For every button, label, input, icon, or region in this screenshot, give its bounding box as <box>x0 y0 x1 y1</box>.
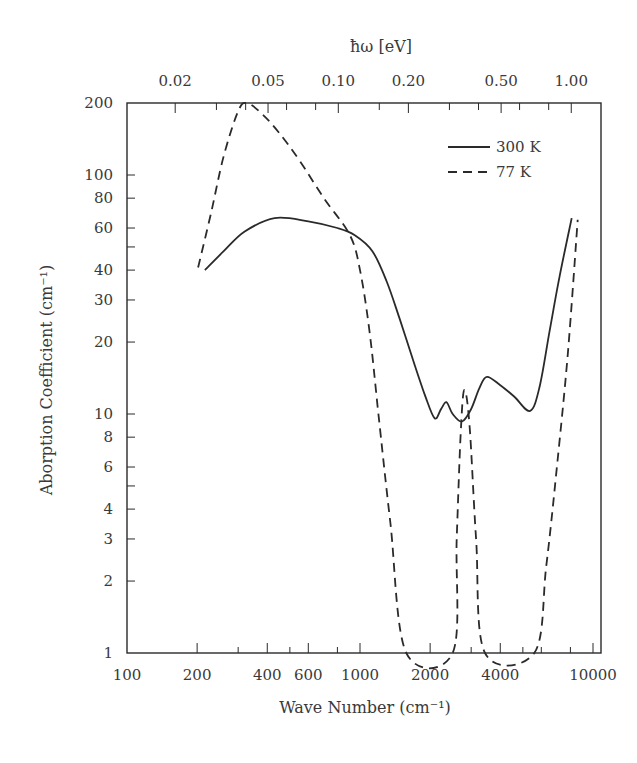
y-tick-label: 8 <box>103 428 113 446</box>
top-tick-label: 0.05 <box>251 72 284 90</box>
y-axis-title: Aborption Coefficient (cm⁻¹) <box>37 265 56 497</box>
y-tick-label: 100 <box>84 166 113 184</box>
plot-frame <box>127 103 601 653</box>
y-tick-label: 30 <box>94 291 113 309</box>
y-tick-label: 60 <box>94 219 113 237</box>
x-tick-label: 200 <box>183 666 212 684</box>
y-tick-label: 2 <box>103 572 113 590</box>
x-tick-label: 4000 <box>481 666 519 684</box>
top-tick-label: 0.10 <box>322 72 355 90</box>
y-tick-label: 6 <box>103 458 113 476</box>
y-tick-label: 80 <box>94 189 113 207</box>
series-300k <box>205 218 572 422</box>
top-tick-label: 0.02 <box>158 72 191 90</box>
top-tick-label: 0.50 <box>484 72 517 90</box>
series-lines <box>198 103 578 668</box>
y-tick-label: 4 <box>103 500 113 518</box>
y-tick-label: 10 <box>94 405 113 423</box>
y-tick-label: 1 <box>103 644 113 662</box>
y-tick-label: 200 <box>84 94 113 112</box>
x-axis-top: 0.020.050.100.200.501.00 <box>158 72 587 113</box>
plot-border <box>127 103 601 653</box>
y-tick-label: 20 <box>94 333 113 351</box>
x-axis-title: Wave Number (cm⁻¹) <box>279 698 451 717</box>
top-tick-label: 1.00 <box>555 72 588 90</box>
series-77k <box>198 103 578 668</box>
legend-label: 300 K <box>496 138 541 156</box>
x-tick-label: 1000 <box>341 666 379 684</box>
chart-canvas: 10020040060010002000400010000 0.020.050.… <box>0 0 637 763</box>
absorption-chart: 10020040060010002000400010000 0.020.050.… <box>0 0 637 763</box>
x-axis-bottom: 10020040060010002000400010000 <box>113 643 617 684</box>
y-tick-label: 40 <box>94 261 113 279</box>
y-tick-label: 3 <box>103 530 113 548</box>
top-tick-label: 0.20 <box>392 72 425 90</box>
x-tick-label: 600 <box>294 666 323 684</box>
x-tick-label: 10000 <box>569 666 617 684</box>
legend-label: 77 K <box>496 163 532 181</box>
x-tick-label: 400 <box>253 666 282 684</box>
top-axis-title: ħω [eV] <box>350 37 412 56</box>
legend: 300 K77 K <box>448 138 541 181</box>
x-tick-label: 100 <box>113 666 142 684</box>
